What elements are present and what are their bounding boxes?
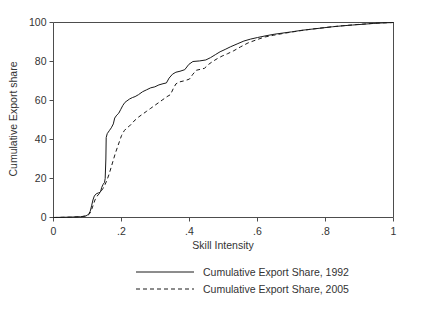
y-tick-label: 100 <box>29 16 47 28</box>
y-tick-label: 20 <box>35 172 47 184</box>
y-axis-title: Cumulative Export share <box>7 61 19 176</box>
cumulative-export-share-chart: 020406080100 0.2.4.6.81 Cumulative Expor… <box>0 0 426 309</box>
x-tick-label: .8 <box>321 225 330 237</box>
x-tick-label: .4 <box>185 225 194 237</box>
legend-label-2005: Cumulative Export Share, 2005 <box>203 283 349 295</box>
x-tick-label: 0 <box>51 225 57 237</box>
legend-label-1992: Cumulative Export Share, 1992 <box>203 266 349 278</box>
y-tick-label: 40 <box>35 133 47 145</box>
y-tick-label: 60 <box>35 94 47 106</box>
x-tick-label: 1 <box>391 225 397 237</box>
y-tick-label: 0 <box>41 211 47 223</box>
x-tick-label: .6 <box>253 225 262 237</box>
x-tick-label: .2 <box>117 225 126 237</box>
y-tick-label: 80 <box>35 55 47 67</box>
chart-figure: 020406080100 0.2.4.6.81 Cumulative Expor… <box>0 0 426 309</box>
x-axis-title: Skill Intensity <box>192 239 254 251</box>
chart-background <box>0 0 426 309</box>
